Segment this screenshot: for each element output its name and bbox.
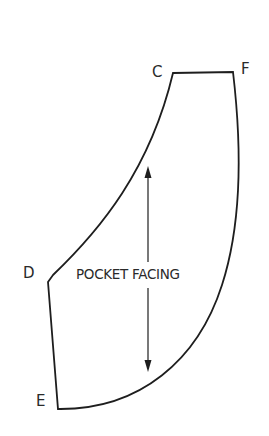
- pattern-outline: [48, 72, 239, 409]
- piece-title: POCKET FACING: [76, 268, 180, 282]
- arrow-up-icon: [145, 166, 152, 178]
- point-label-e: E: [36, 394, 45, 409]
- point-label-f: F: [241, 62, 250, 77]
- point-label-d: D: [23, 266, 35, 281]
- pattern-piece-diagram: C F D E POCKET FACING: [0, 0, 269, 436]
- pocket-facing-outline: [0, 0, 269, 436]
- arrow-down-icon: [145, 360, 152, 372]
- point-label-c: C: [152, 65, 162, 80]
